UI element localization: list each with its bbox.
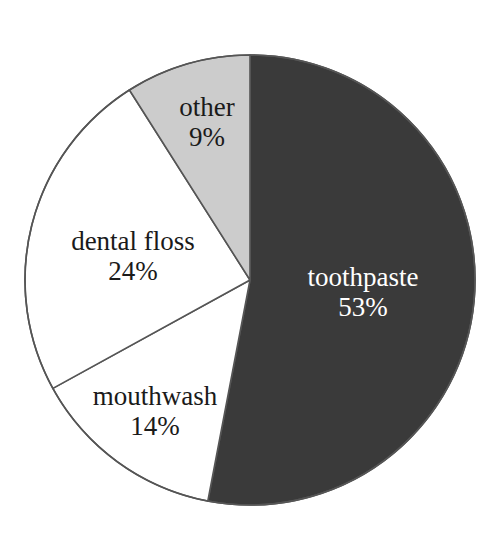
- pie-chart-canvas: [0, 0, 501, 534]
- pie-slice-group: [25, 55, 475, 505]
- pie-chart: toothpaste 53% mouthwash 14% dental flos…: [0, 0, 501, 534]
